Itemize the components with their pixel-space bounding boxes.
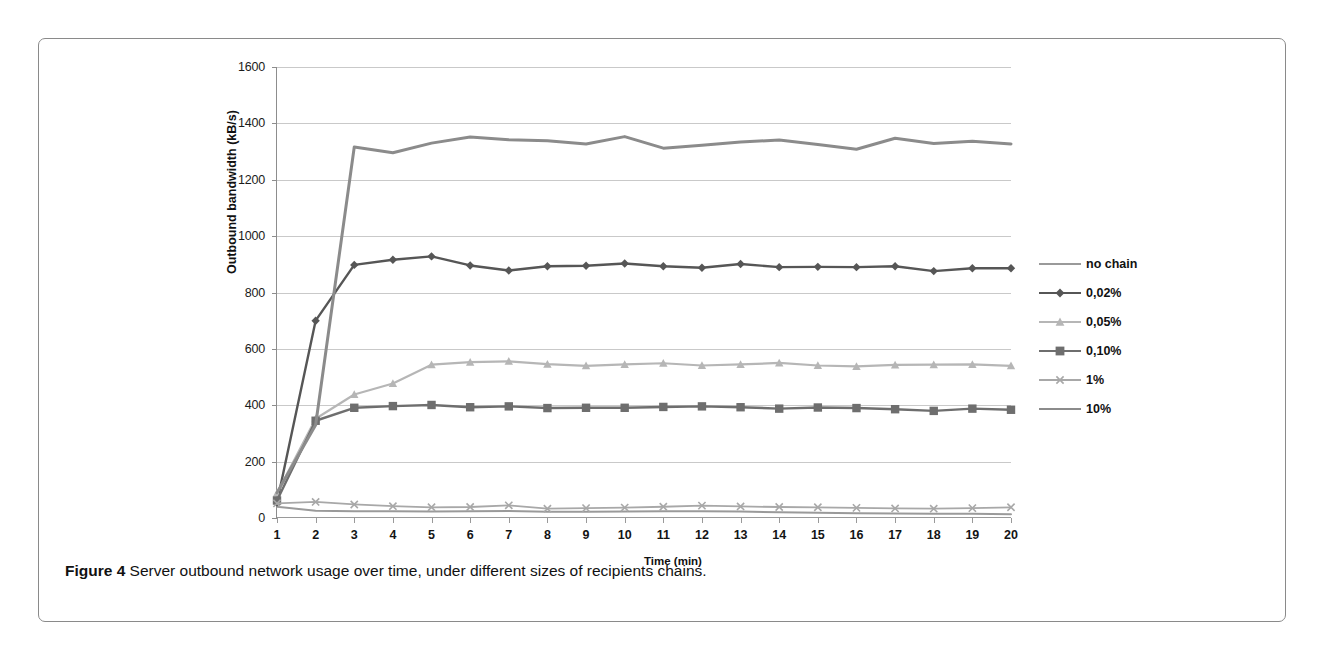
series-marker: [814, 263, 822, 271]
legend-swatch-icon: [1039, 344, 1081, 358]
x-tick-label: 9: [583, 528, 590, 542]
x-tick-mark: [547, 518, 548, 523]
series-line: [277, 137, 1011, 493]
series-line: [277, 405, 1011, 501]
series-marker: [736, 403, 744, 411]
y-tick-label: 200: [211, 455, 265, 469]
x-tick-label: 3: [351, 528, 358, 542]
x-tick-mark: [277, 518, 278, 523]
legend-marker: [1056, 317, 1065, 325]
series-2: [273, 252, 1015, 506]
x-tick-mark: [779, 518, 780, 523]
series-line: [277, 502, 1011, 509]
series-marker: [698, 263, 706, 271]
x-tick-label: 19: [965, 528, 979, 542]
x-tick-mark: [1011, 518, 1012, 523]
legend-item-2[interactable]: 0,02%: [1039, 278, 1229, 307]
x-tick-mark: [818, 518, 819, 523]
legend-label: 0,05%: [1086, 315, 1121, 329]
x-tick-mark: [856, 518, 857, 523]
series-marker: [775, 263, 783, 271]
series-marker: [582, 404, 590, 412]
x-tick-mark: [470, 518, 471, 523]
y-tick-label: 600: [211, 342, 265, 356]
x-tick-label: 7: [505, 528, 512, 542]
x-tick-label: 2: [312, 528, 319, 542]
series-marker: [582, 262, 590, 270]
series-marker: [350, 404, 358, 412]
series-marker: [736, 260, 744, 268]
series-marker: [389, 402, 397, 410]
x-tick-label: 14: [772, 528, 786, 542]
x-tick-label: 1: [274, 528, 281, 542]
series-marker: [389, 256, 397, 264]
legend-label: 10%: [1086, 402, 1111, 416]
series-marker: [930, 407, 938, 415]
legend-item-1[interactable]: no chain: [1039, 249, 1229, 278]
series-marker: [852, 404, 860, 412]
legend-label: 1%: [1086, 373, 1104, 387]
series-marker: [427, 401, 435, 409]
x-tick-label: 5: [428, 528, 435, 542]
x-tick-label: 15: [811, 528, 825, 542]
legend-marker-icon: [1053, 286, 1067, 300]
series-4: [273, 401, 1015, 505]
series-marker: [698, 402, 706, 410]
series-marker: [466, 261, 474, 269]
x-tick-mark: [702, 518, 703, 523]
legend-label: no chain: [1086, 257, 1137, 271]
x-tick-mark: [741, 518, 742, 523]
chart-legend: no chain0,02%0,05%0,10%1%10%: [1039, 249, 1229, 423]
x-tick-mark: [663, 518, 664, 523]
legend-swatch-icon: [1039, 373, 1081, 387]
legend-marker: [1056, 376, 1063, 383]
legend-item-5[interactable]: 1%: [1039, 365, 1229, 394]
series-line: [277, 256, 1011, 502]
x-tick-label: 11: [657, 528, 670, 542]
series-marker: [427, 252, 435, 260]
series-marker: [1007, 406, 1015, 414]
x-tick-mark: [895, 518, 896, 523]
x-tick-label: 12: [695, 528, 709, 542]
series-marker: [543, 262, 551, 270]
y-tick-label: 1400: [211, 116, 265, 130]
x-tick-label: 8: [544, 528, 551, 542]
x-tick-label: 6: [467, 528, 474, 542]
legend-line: [1039, 408, 1081, 411]
x-tick-label: 10: [618, 528, 632, 542]
x-tick-mark: [934, 518, 935, 523]
x-tick-mark: [432, 518, 433, 523]
x-tick-label: 17: [888, 528, 902, 542]
caption-label: Figure 4: [65, 562, 125, 579]
x-tick-label: 13: [734, 528, 748, 542]
legend-label: 0,02%: [1086, 286, 1121, 300]
legend-item-4[interactable]: 0,10%: [1039, 336, 1229, 365]
series-marker: [1007, 264, 1015, 272]
series-marker: [543, 404, 551, 412]
legend-swatch-icon: [1039, 315, 1081, 329]
legend-marker-icon: [1053, 373, 1067, 387]
y-tick-label: 400: [211, 398, 265, 412]
x-tick-label: 20: [1004, 528, 1018, 542]
series-marker: [659, 262, 667, 270]
series-marker: [659, 403, 667, 411]
legend-swatch-icon: [1039, 257, 1081, 271]
series-line: [277, 361, 1011, 493]
x-tick-mark: [625, 518, 626, 523]
series-3: [273, 357, 1015, 497]
x-tick-mark: [586, 518, 587, 523]
legend-item-6[interactable]: 10%: [1039, 394, 1229, 423]
x-tick-mark: [509, 518, 510, 523]
figure-caption: Figure 4 Server outbound network usage o…: [65, 561, 1265, 580]
plot-area: 02004006008001000120014001600 1234567891…: [277, 67, 1011, 518]
x-tick-mark: [972, 518, 973, 523]
x-tick-label: 4: [389, 528, 396, 542]
y-tick-label: 1600: [211, 60, 265, 74]
series-marker: [891, 405, 899, 413]
series-marker: [505, 266, 513, 274]
figure-frame: Outbound bandwidth (kB/s) Time (min) 020…: [38, 38, 1286, 622]
chart-canvas: Outbound bandwidth (kB/s) Time (min) 020…: [39, 39, 1287, 549]
y-axis-title: Outbound bandwidth (kB/s): [225, 110, 239, 274]
legend-item-3[interactable]: 0,05%: [1039, 307, 1229, 336]
series-marker: [620, 259, 628, 267]
